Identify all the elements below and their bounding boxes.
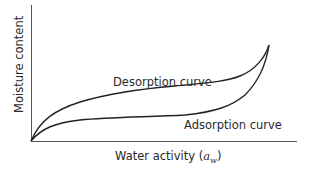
x-axis-label: Water activity (aw) bbox=[115, 149, 221, 165]
desorption-curve-label: Desorption curve bbox=[113, 75, 212, 89]
sorption-isotherm-diagram: Desorption curve Adsorption curve Moistu… bbox=[0, 0, 312, 171]
x-axis-label-close: ) bbox=[217, 149, 222, 163]
y-axis-label: Moisture content bbox=[12, 15, 26, 113]
adsorption-curve-label: Adsorption curve bbox=[184, 118, 282, 132]
x-axis-label-main: Water activity ( bbox=[115, 149, 203, 163]
